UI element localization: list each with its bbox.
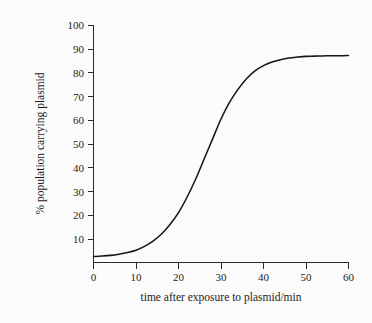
x-tick-label: 60 <box>343 271 355 283</box>
y-axis-title: % population carrying plasmid <box>34 72 47 214</box>
x-tick-label: 30 <box>216 271 228 283</box>
chart-figure: 100 90 80 70 60 50 40 30 20 10 0 10 20 3… <box>0 0 372 323</box>
y-tick-label: 20 <box>73 209 85 221</box>
x-tick-label: 10 <box>131 271 143 283</box>
x-tick-label: 40 <box>258 271 270 283</box>
x-axis-title: time after exposure to plasmid/min <box>141 291 302 304</box>
x-tick-label: 50 <box>301 271 313 283</box>
chart-background <box>0 0 372 323</box>
y-tick-label: 100 <box>68 19 85 31</box>
y-tick-label: 80 <box>73 67 85 79</box>
y-tick-label: 30 <box>73 186 85 198</box>
x-tick-label: 20 <box>173 271 185 283</box>
y-tick-label: 90 <box>73 43 85 55</box>
y-tick-label: 70 <box>73 91 85 103</box>
x-tick-label: 0 <box>91 271 97 283</box>
y-tick-label: 60 <box>73 114 85 126</box>
y-tick-label: 50 <box>73 138 85 150</box>
y-tick-label: 40 <box>73 162 85 174</box>
y-tick-label: 10 <box>73 233 85 245</box>
sigmoid-line-chart: 100 90 80 70 60 50 40 30 20 10 0 10 20 3… <box>0 0 372 323</box>
